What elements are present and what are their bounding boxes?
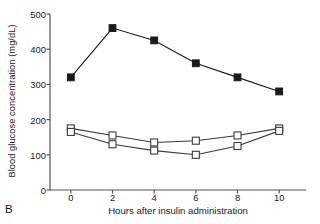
open-square-marker [109, 141, 116, 148]
series-line [71, 131, 279, 155]
open-square-marker [192, 137, 199, 144]
chart-figure: Blood glucose concentration (mg/dL) 0100… [0, 0, 320, 224]
x-axis-label: Hours after insulin administration [50, 205, 306, 216]
filled-square-marker [67, 74, 74, 81]
tick-marks [47, 14, 280, 194]
open-square-marker [67, 128, 74, 135]
series-lines [71, 28, 279, 155]
series-line [71, 128, 279, 142]
panel-label: B [5, 203, 13, 215]
open-square-marker [276, 127, 283, 134]
axis-lines [50, 14, 306, 190]
open-square-marker [151, 147, 158, 154]
series-line [71, 28, 279, 91]
open-square-marker [109, 132, 116, 139]
filled-square-marker [192, 60, 199, 67]
filled-square-marker [109, 25, 116, 32]
open-square-marker [234, 143, 241, 150]
filled-square-marker [151, 37, 158, 44]
open-square-marker [234, 132, 241, 139]
filled-square-marker [276, 88, 283, 95]
open-square-marker [151, 139, 158, 146]
filled-square-marker [234, 74, 241, 81]
series-markers [67, 25, 282, 159]
plot-area [0, 0, 320, 224]
open-square-marker [192, 151, 199, 158]
